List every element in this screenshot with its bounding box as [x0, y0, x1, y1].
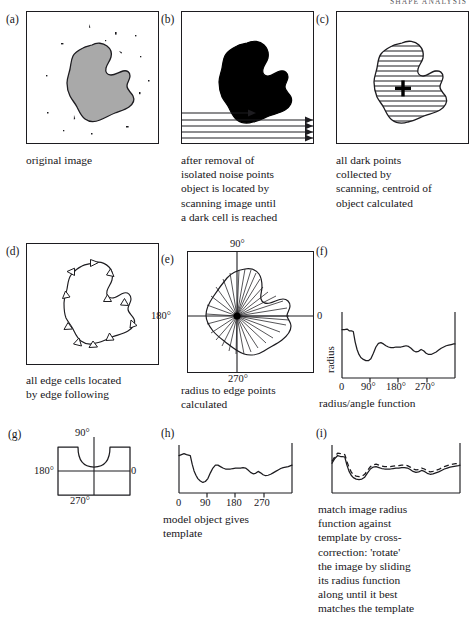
panel-h-curve [179, 454, 292, 483]
panel-f-tick-180: 180° [386, 381, 406, 392]
panel-a-caption: original image [26, 153, 166, 167]
panel-e-caption: radius to edge points calculated [181, 383, 331, 411]
running-head: SHAPE ANALYSIS [390, 0, 467, 6]
panel-d-frame [26, 243, 159, 365]
panel-g-label: (g) [8, 429, 21, 441]
panel-a-label: (a) [6, 14, 19, 26]
panel-i-caption: match image radius function against temp… [318, 502, 475, 616]
panel-i-label: (i) [316, 428, 327, 440]
panel-c-caption: all dark points collected by scanning, c… [336, 153, 475, 210]
panel-f-tick-90: 90° [361, 381, 376, 392]
panel-d-graphic [27, 244, 158, 364]
panel-d-label: (d) [6, 246, 19, 258]
panel-f-curve [342, 329, 455, 361]
panel-h-tick-0: 0 [176, 497, 181, 508]
panel-h-caption: model object gives template [163, 512, 313, 540]
panel-b-caption: after removal of isolated noise points o… [181, 153, 331, 224]
panel-b-graphic [182, 12, 313, 143]
panel-c-graphic [337, 12, 468, 143]
object-blob-a [67, 43, 134, 121]
panel-g-graphic [58, 441, 158, 521]
panel-a-frame [26, 11, 159, 144]
panel-b-frame [181, 11, 314, 144]
panel-f-label: (f) [316, 246, 328, 258]
panel-i-image-curve [332, 456, 460, 480]
panel-c-label: (c) [316, 14, 329, 26]
panel-f-caption: radius/angle function [319, 396, 475, 410]
panel-g-label-90: 90° [75, 427, 90, 438]
panel-d-caption: all edge cells located by edge following [26, 373, 171, 401]
radius-rays [206, 269, 289, 354]
panel-g-label-180: 180° [34, 465, 54, 476]
object-blob-b [219, 41, 292, 123]
panel-e-frame [187, 251, 314, 373]
panel-e-graphic [188, 252, 313, 372]
panel-b-label: (b) [161, 14, 174, 26]
centroid-cross-icon [395, 80, 411, 96]
panel-c-frame [336, 11, 469, 144]
centroid-dot [233, 312, 240, 319]
panel-e-label-0: 0 [317, 310, 322, 321]
panel-h-axes [179, 443, 292, 498]
panel-f-tick-270: 270° [415, 381, 435, 392]
panel-e-label-180: 180° [151, 310, 171, 321]
panel-e-label-90: 90° [230, 238, 245, 249]
panel-h-label: (h) [161, 428, 174, 440]
panel-h-tick-180: 180 [226, 497, 242, 508]
panel-f-tick-0: 0 [339, 381, 344, 392]
panel-a-graphic [27, 12, 158, 143]
panel-i-template-curve [332, 453, 460, 477]
panel-h-chart [165, 443, 315, 523]
panel-h-tick-90: 90 [200, 497, 211, 508]
figure-page: SHAPE ANALYSIS (a) [0, 0, 475, 625]
model-axes [58, 437, 130, 495]
edge-direction-arrows [63, 260, 138, 348]
panel-h-tick-270: 270 [254, 497, 270, 508]
panel-e-label: (e) [161, 254, 174, 266]
